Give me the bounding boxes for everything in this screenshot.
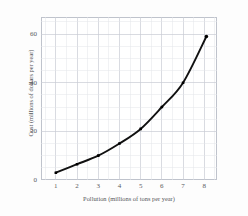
- x-tick-label-5: 5: [134, 182, 148, 190]
- curve-path: [56, 36, 207, 172]
- y-axis-title: Cost (millions of dollars per year): [26, 18, 36, 168]
- x-tick-label-7: 7: [176, 182, 190, 190]
- data-point-marker: [118, 142, 121, 145]
- data-point-marker: [205, 35, 209, 39]
- data-curve: [41, 17, 217, 180]
- x-axis-title: Pollution (millions of tons per year): [41, 195, 217, 203]
- data-point-marker: [182, 81, 185, 84]
- data-point-marker: [139, 128, 142, 131]
- data-point-marker: [55, 171, 58, 174]
- chart-figure: 12345678 0204060 Pollution (millions of …: [0, 0, 248, 216]
- data-point-marker: [161, 106, 164, 109]
- data-point-marker: [76, 163, 79, 166]
- x-tick-label-1: 1: [49, 182, 63, 190]
- x-tick-label-3: 3: [91, 182, 105, 190]
- x-tick-label-8: 8: [197, 182, 211, 190]
- y-tick-label-0: 0: [23, 176, 37, 184]
- plot-area: [41, 17, 217, 180]
- x-tick-label-6: 6: [155, 182, 169, 190]
- figure-caption: [62, 0, 192, 8]
- data-point-marker: [97, 154, 100, 157]
- y-axis-title-container: Cost (millions of dollars per year): [26, 18, 36, 168]
- x-tick-label-2: 2: [70, 182, 84, 190]
- x-tick-label-4: 4: [112, 182, 126, 190]
